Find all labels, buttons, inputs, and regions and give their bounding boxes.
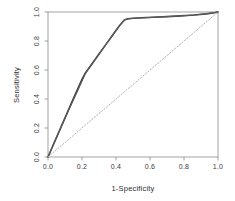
- y-tick-label: 0.0: [33, 152, 40, 162]
- roc-curve-figure: 0.00.20.40.60.81.0 0.00.20.40.60.81.0 1-…: [0, 0, 235, 201]
- data-series: [48, 12, 218, 157]
- x-tick-label: 1.0: [213, 163, 223, 170]
- series-line: [48, 12, 218, 157]
- y-tick-label: 0.6: [33, 65, 40, 75]
- x-tick-label: 0.0: [43, 163, 53, 170]
- x-tick-label: 0.4: [111, 163, 121, 170]
- y-tick-label: 0.2: [33, 123, 40, 133]
- x-tick-label: 0.6: [145, 163, 155, 170]
- y-tick-label: 0.8: [33, 36, 40, 46]
- y-tick-label: 1.0: [33, 7, 40, 17]
- x-axis-title: 1-Specificity: [111, 184, 154, 193]
- x-tick-label: 0.2: [77, 163, 87, 170]
- y-axis-title: Sensitivity: [12, 67, 21, 103]
- x-tick-label: 0.8: [179, 163, 189, 170]
- y-tick-label: 0.4: [33, 94, 40, 104]
